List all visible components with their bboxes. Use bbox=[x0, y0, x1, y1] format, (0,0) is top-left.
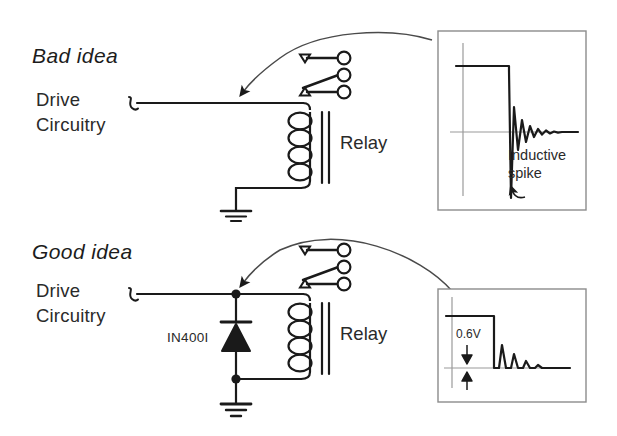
ground-symbol-bad bbox=[221, 211, 251, 221]
relay-coil-good bbox=[289, 294, 312, 379]
voltage-measurement-label: 0.6V bbox=[456, 328, 481, 341]
relay-contacts-good bbox=[300, 244, 350, 291]
diode-part-number-label: IN400I bbox=[167, 330, 209, 345]
relay-armature-good bbox=[322, 303, 329, 374]
relay-label-good: Relay bbox=[340, 324, 387, 345]
relay-label-bad: Relay bbox=[340, 133, 387, 154]
good-idea-circuit bbox=[129, 239, 452, 416]
section-title-good: Good idea bbox=[32, 240, 133, 264]
curved-pointer-arrow-good bbox=[243, 239, 452, 291]
wire-coil-to-ground-bad bbox=[236, 188, 301, 211]
contact-terminal bbox=[338, 69, 351, 82]
relay-contacts-bad bbox=[300, 52, 350, 99]
curved-pointer-arrow-bad bbox=[243, 33, 432, 92]
relay-armature-bad bbox=[322, 112, 329, 183]
drive-circuitry-label-bad-line2: Circuitry bbox=[36, 115, 106, 136]
contact-terminal bbox=[338, 261, 351, 274]
annotation-inductive-spike-line2: spike bbox=[508, 165, 542, 183]
inset-bad-scope bbox=[438, 31, 586, 210]
drive-circuitry-label-good-line1: Drive bbox=[36, 281, 80, 302]
ground-symbol-good bbox=[221, 404, 251, 416]
inset-good-scope bbox=[438, 289, 586, 402]
section-title-bad: Bad idea bbox=[32, 44, 118, 68]
contact-terminal bbox=[338, 278, 351, 291]
bad-idea-circuit bbox=[129, 33, 432, 221]
circuit-diagram-figure: Bad idea Drive Circuitry Relay Inductive… bbox=[0, 0, 617, 436]
relay-coil-bad bbox=[289, 103, 312, 188]
contact-terminal bbox=[338, 86, 351, 99]
contact-terminal bbox=[338, 52, 351, 65]
drive-circuitry-label-good-line2: Circuitry bbox=[36, 306, 106, 327]
diode-symbol bbox=[221, 322, 251, 351]
contact-terminal bbox=[338, 244, 351, 257]
drive-circuitry-label-bad-line1: Drive bbox=[36, 90, 80, 111]
annotation-inductive-spike-line1: Inductive bbox=[508, 147, 566, 165]
